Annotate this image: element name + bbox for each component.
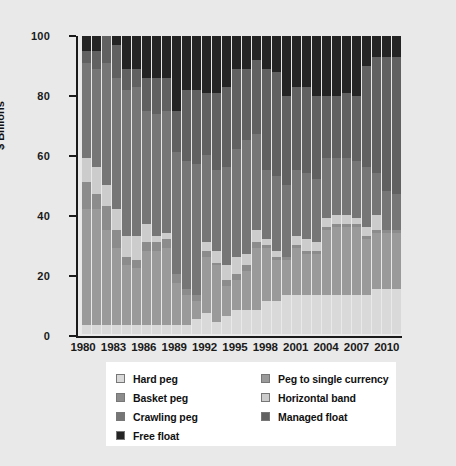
segment-crawling-peg bbox=[192, 164, 201, 295]
segment-managed-float bbox=[292, 87, 301, 170]
segment-managed-float bbox=[162, 78, 171, 111]
segment-managed-float bbox=[152, 78, 161, 114]
segment-managed-float bbox=[332, 96, 341, 159]
bar-1993 bbox=[212, 36, 221, 334]
segment-free-float bbox=[222, 36, 231, 87]
legend-item-hard-peg[interactable]: Hard peg bbox=[116, 369, 198, 388]
segment-horizontal-band bbox=[292, 236, 301, 245]
segment-crawling-peg bbox=[272, 176, 281, 251]
segment-free-float bbox=[162, 36, 171, 78]
y-tick-label-80: 80 bbox=[2, 90, 50, 102]
segment-peg-to-single-currency bbox=[192, 301, 201, 319]
y-tick-label-100: 100 bbox=[2, 30, 50, 42]
segment-free-float bbox=[172, 36, 181, 111]
bar-1986 bbox=[142, 36, 151, 334]
segment-hard-peg bbox=[262, 301, 271, 334]
segment-peg-to-single-currency bbox=[312, 254, 321, 296]
segment-hard-peg bbox=[302, 295, 311, 334]
segment-hard-peg bbox=[202, 313, 211, 334]
segment-peg-to-single-currency bbox=[212, 265, 221, 322]
segment-crawling-peg bbox=[212, 170, 221, 250]
segment-basket-peg bbox=[92, 194, 101, 209]
legend-item-horizontal-band[interactable]: Horizontal band bbox=[261, 388, 388, 407]
legend-item-crawling-peg[interactable]: Crawling peg bbox=[116, 407, 198, 426]
segment-hard-peg bbox=[382, 289, 391, 334]
segment-horizontal-band bbox=[142, 224, 151, 242]
bar-1994 bbox=[222, 36, 231, 334]
segment-free-float bbox=[242, 36, 251, 69]
x-tick-label-1995: 1995 bbox=[222, 341, 247, 353]
legend-swatch-icon-free-float bbox=[116, 431, 125, 440]
bar-2003 bbox=[312, 36, 321, 334]
bar-2007 bbox=[352, 36, 361, 334]
segment-peg-to-single-currency bbox=[292, 248, 301, 296]
segment-basket-peg bbox=[112, 230, 121, 248]
segment-crawling-peg bbox=[362, 167, 371, 227]
segment-horizontal-band bbox=[122, 236, 131, 257]
segment-hard-peg bbox=[162, 325, 171, 334]
segment-managed-float bbox=[112, 45, 121, 78]
stacked-bar-group bbox=[80, 36, 402, 334]
segment-horizontal-band bbox=[302, 239, 311, 251]
segment-managed-float bbox=[182, 90, 191, 162]
segment-managed-float bbox=[212, 93, 221, 170]
segment-crawling-peg bbox=[292, 170, 301, 236]
segment-hard-peg bbox=[242, 310, 251, 334]
segment-crawling-peg bbox=[182, 161, 191, 289]
segment-basket-peg bbox=[172, 274, 181, 283]
bar-1996 bbox=[242, 36, 251, 334]
segment-free-float bbox=[382, 36, 391, 57]
segment-hard-peg bbox=[172, 325, 181, 334]
bar-1984 bbox=[122, 36, 131, 334]
segment-free-float bbox=[112, 36, 121, 45]
segment-hard-peg bbox=[282, 295, 291, 334]
bar-1990 bbox=[182, 36, 191, 334]
segment-crawling-peg bbox=[112, 78, 121, 209]
bar-2005 bbox=[332, 36, 341, 334]
bar-2004 bbox=[322, 36, 331, 334]
legend-item-basket-peg[interactable]: Basket peg bbox=[116, 388, 198, 407]
segment-basket-peg bbox=[102, 206, 111, 230]
segment-managed-float bbox=[192, 90, 201, 165]
segment-basket-peg bbox=[122, 257, 131, 266]
segment-hard-peg bbox=[272, 301, 281, 334]
segment-hard-peg bbox=[102, 325, 111, 334]
segment-free-float bbox=[192, 36, 201, 90]
legend-label-basket-peg: Basket peg bbox=[133, 392, 188, 404]
y-tick-mark-60 bbox=[69, 155, 76, 157]
segment-hard-peg bbox=[192, 319, 201, 334]
legend-item-free-float[interactable]: Free float bbox=[116, 426, 198, 445]
y-tick-label-60: 60 bbox=[2, 150, 50, 162]
segment-horizontal-band bbox=[372, 215, 381, 230]
segment-hard-peg bbox=[392, 289, 401, 334]
segment-hard-peg bbox=[232, 310, 241, 334]
segment-managed-float bbox=[302, 87, 311, 173]
segment-crawling-peg bbox=[252, 134, 261, 229]
segment-basket-peg bbox=[162, 239, 171, 248]
segment-basket-peg bbox=[132, 260, 141, 269]
segment-crawling-peg bbox=[82, 63, 91, 158]
legend-item-peg-to-single-currency[interactable]: Peg to single currency bbox=[261, 369, 388, 388]
segment-hard-peg bbox=[342, 295, 351, 334]
legend-swatch-icon-crawling-peg bbox=[116, 412, 125, 421]
segment-peg-to-single-currency bbox=[342, 227, 351, 296]
segment-crawling-peg bbox=[222, 167, 231, 265]
legend-swatch-icon-basket-peg bbox=[116, 393, 125, 402]
x-tick-label-1980: 1980 bbox=[70, 341, 95, 353]
segment-hard-peg bbox=[252, 310, 261, 334]
legend-item-managed-float[interactable]: Managed float bbox=[261, 407, 388, 426]
segment-peg-to-single-currency bbox=[162, 248, 171, 325]
bar-1997 bbox=[252, 36, 261, 334]
y-tick-mark-0 bbox=[69, 335, 76, 337]
bar-1991 bbox=[192, 36, 201, 334]
segment-managed-float bbox=[92, 51, 101, 69]
segment-crawling-peg bbox=[122, 90, 131, 236]
bar-2008 bbox=[362, 36, 371, 334]
x-tick-label-2004: 2004 bbox=[313, 341, 338, 353]
segment-horizontal-band bbox=[232, 257, 241, 275]
chart-figure: $ Billions Hard pegBasket pegCrawling pe… bbox=[0, 0, 456, 466]
segment-crawling-peg bbox=[302, 173, 311, 239]
segment-hard-peg bbox=[352, 295, 361, 334]
segment-free-float bbox=[392, 36, 401, 57]
segment-horizontal-band bbox=[252, 230, 261, 242]
